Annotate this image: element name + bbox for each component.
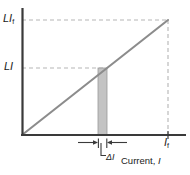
y-label-flux-base: LI [4, 60, 13, 72]
flux-linkage-line [22, 20, 168, 135]
y-label-flux-final-base: LI [3, 12, 12, 24]
figure-container: LIf LI If ΔI Current, I [0, 0, 190, 175]
x-label-current-final-sub: f [167, 141, 169, 150]
delta-current-label: ΔI [106, 152, 115, 162]
x-axis-title: Current, I [121, 155, 161, 166]
delta-arrow-right-head [107, 140, 112, 144]
shaded-strip [98, 68, 107, 135]
y-label-flux-final-sub: f [12, 17, 14, 26]
x-label-current-final: If [164, 136, 169, 150]
y-label-flux-final: LIf [3, 12, 14, 26]
x-axis-title-symbol: I [158, 155, 161, 166]
delta-arrow-left-head [93, 140, 98, 144]
y-label-flux: LI [4, 60, 13, 72]
x-axis-title-prefix: Current, [121, 155, 158, 166]
graph-canvas [0, 0, 190, 175]
